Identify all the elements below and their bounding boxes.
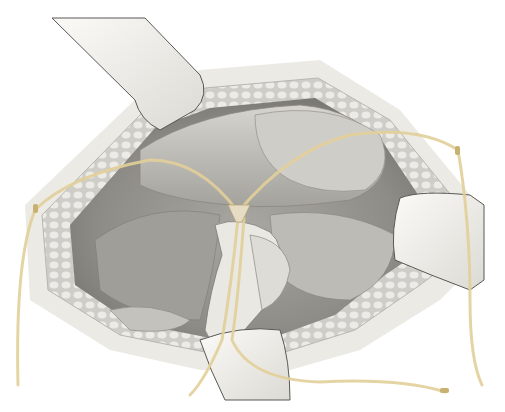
surgical-illustration xyxy=(0,0,505,412)
retractor-bottom xyxy=(200,329,290,400)
